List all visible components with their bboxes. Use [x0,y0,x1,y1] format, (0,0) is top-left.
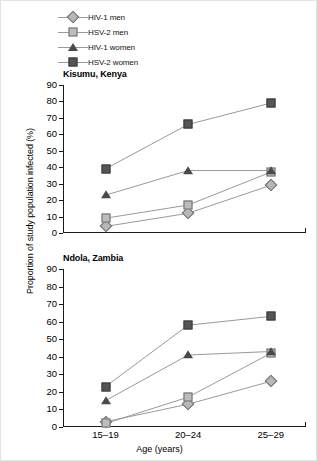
y-axis-tick-label: 40 [46,162,57,172]
y-axis-tick-label: 20 [46,195,57,205]
data-point-hiv-1-women [101,190,111,198]
data-point-hsv-2-women [101,382,110,391]
data-point-hsv-2-women [266,312,275,321]
data-point-hsv-2-women [266,99,275,108]
series-line-hiv-1-women [106,171,271,196]
x-axis-tick-label: 25–29 [258,429,284,440]
panel-title: Ndola, Zambia [63,253,123,263]
data-point-hsv-2-men [101,419,110,428]
legend-item-hsv2_women[interactable]: HSV-2 women [58,55,228,69]
data-point-hsv-2-men [184,393,193,402]
y-axis-tick-label: 0 [52,422,57,432]
legend-item-hiv1_women[interactable]: HIV-1 women [58,40,228,54]
data-point-hiv-1-women [183,350,193,358]
plot-area: 9080706050403020100 [63,269,306,427]
y-axis-tick-label: 70 [46,113,57,123]
y-axis-tick-label: 70 [46,299,57,309]
data-point-hiv-1-women [266,166,276,174]
data-point-hsv-2-women [101,164,110,173]
legend-key-hiv1_men [58,11,88,23]
x-axis-label: Age (years) [1,444,317,454]
y-axis-tick-label: 20 [46,387,57,397]
y-axis-tick-label: 50 [46,146,57,156]
y-axis-tick-label: 0 [52,228,57,238]
legend-item-label: HSV-2 men [88,28,128,37]
x-axis-tick-label: 20–24 [175,429,201,440]
y-axis-tick [59,427,63,428]
y-axis-tick-label: 50 [46,334,57,344]
y-axis-tick-label: 90 [46,80,57,90]
data-point-hsv-2-women [184,120,193,129]
y-axis-tick-label: 40 [46,352,57,362]
y-axis-tick-label: 30 [46,179,57,189]
data-point-hiv-1-women [101,396,111,404]
series-line-hsv-2-women [106,103,271,169]
data-point-hsv-2-men [184,201,193,210]
legend-key-hsv2_men [58,26,88,38]
data-point-hsv-2-women [184,321,193,330]
y-axis-label: Proportion of study population infected … [25,96,35,326]
x-axis-tick-label: 15–19 [92,429,118,440]
y-axis-tick [59,233,63,234]
y-axis-tick-label: 90 [46,264,57,274]
diamond-marker-icon [67,11,80,24]
legend-item-hsv2_men[interactable]: HSV-2 men [58,25,228,39]
data-point-hiv-1-women [183,166,193,174]
y-axis-tick-label: 10 [46,405,57,415]
figure-container: HIV-1 menHSV-2 menHIV-1 womenHSV-2 women… [0,0,317,461]
data-point-hsv-2-men [101,214,110,223]
y-axis-tick-label: 30 [46,370,57,380]
chart-legend: HIV-1 menHSV-2 menHIV-1 womenHSV-2 women [58,10,228,70]
panel-title: Kisumu, Kenya [63,69,127,79]
legend-item-label: HSV-2 women [88,58,138,67]
triangle-marker-icon [68,43,78,51]
plot-area: 9080706050403020100 [63,85,306,233]
square-light-marker-icon [69,28,78,37]
y-axis-tick-label: 10 [46,212,57,222]
legend-key-hiv1_women [58,41,88,53]
y-axis-tick-label: 60 [46,130,57,140]
data-point-hiv-1-women [266,347,276,355]
y-axis-tick-label: 80 [46,97,57,107]
legend-key-hsv2_women [58,56,88,68]
legend-item-label: HIV-1 women [88,43,135,52]
x-axis-tick-labels: 15–1920–2425–29 [63,429,306,441]
legend-item-hiv1_men[interactable]: HIV-1 men [58,10,228,24]
legend-item-label: HIV-1 men [88,13,125,22]
square-dark-marker-icon [69,58,78,67]
y-axis-tick-label: 60 [46,317,57,327]
y-axis-tick-label: 80 [46,282,57,292]
